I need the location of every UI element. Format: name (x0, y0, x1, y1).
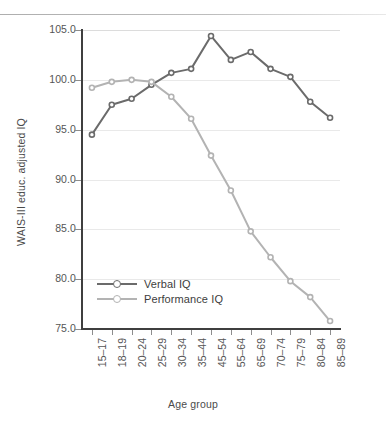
legend-label: Performance IQ (144, 293, 223, 305)
chart-legend: Verbal IQPerformance IQ (97, 276, 223, 306)
x-axis-title: Age group (0, 398, 386, 410)
data-point (129, 77, 134, 82)
data-point (228, 57, 233, 62)
y-tick-mark (74, 180, 81, 181)
legend-line-swatch (97, 293, 137, 305)
data-point (288, 279, 293, 284)
y-tick-mark (74, 229, 81, 230)
series-plot-area (0, 0, 386, 422)
iq-by-age-line-chart: 75.080.085.090.095.0100.0105.0 15–1718–1… (0, 0, 386, 422)
data-point (308, 99, 313, 104)
data-point (149, 79, 154, 84)
data-point (169, 70, 174, 75)
data-point (169, 94, 174, 99)
data-point (209, 33, 214, 38)
data-point (209, 153, 214, 158)
y-tick-mark (74, 130, 81, 131)
data-point (228, 188, 233, 193)
data-point (248, 49, 253, 54)
data-point (248, 229, 253, 234)
y-tick-mark (74, 279, 81, 280)
data-point (189, 66, 194, 71)
legend-item: Verbal IQ (97, 276, 223, 291)
data-point (308, 295, 313, 300)
series-verbal-iq (89, 33, 332, 137)
data-point (89, 85, 94, 90)
legend-line-swatch (97, 278, 137, 290)
data-point (189, 116, 194, 121)
data-point (109, 102, 114, 107)
data-point (268, 66, 273, 71)
y-tick-mark (74, 30, 81, 31)
data-point (288, 74, 293, 79)
data-point (89, 132, 94, 137)
legend-item: Performance IQ (97, 291, 223, 306)
data-point (328, 319, 333, 324)
data-point (328, 115, 333, 120)
y-tick-mark (74, 80, 81, 81)
y-axis-title: WAIS-III educ. adjusted IQ (15, 77, 27, 287)
data-point (268, 255, 273, 260)
data-point (129, 96, 134, 101)
legend-label: Verbal IQ (144, 278, 191, 290)
y-tick-mark (74, 329, 81, 330)
data-point (109, 79, 114, 84)
